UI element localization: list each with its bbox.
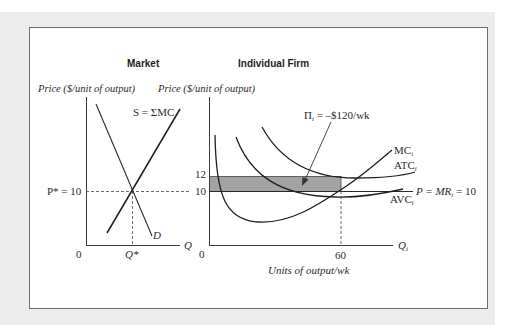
tick-10-label: 10	[195, 185, 206, 197]
firm-origin-label: 0	[199, 248, 205, 260]
market-y-axis-label: Price ($/unit of output)	[38, 83, 135, 95]
supply-label: S = ΣMC	[133, 106, 174, 118]
supply-curve	[107, 109, 180, 233]
market-x-axis-label: Q	[184, 239, 192, 251]
firm-x-axis-title: Units of output/wk	[268, 264, 349, 276]
tick-12-label: 12	[195, 168, 206, 180]
atc-label: ATCi	[394, 159, 417, 175]
firm-y-axis-label: Price ($/unit of output)	[158, 83, 255, 95]
firm-x-axis-symbol: Q	[398, 239, 406, 251]
demand-label: D	[153, 229, 161, 241]
firm-title: Individual Firm	[238, 58, 309, 70]
subscript: i	[406, 245, 408, 253]
profit-label: Πi = –$120/wk	[304, 109, 370, 125]
equilibrium-quantity-label: Q*	[125, 248, 138, 260]
market-origin-label: 0	[76, 248, 82, 260]
firm-x-axis-label: Qi	[398, 239, 408, 255]
equilibrium-price-label: P* = 10	[47, 185, 81, 197]
tick-60-label: 60	[335, 249, 346, 261]
price-line-label: P = MRi = 10	[416, 185, 476, 201]
market-guides	[86, 191, 189, 245]
mc-label: MCi	[394, 144, 413, 160]
market-title: Market	[127, 58, 159, 70]
avc-label: AVCi	[390, 193, 414, 209]
market-axes	[86, 97, 180, 246]
diagram-canvas	[0, 0, 515, 333]
atc-curve	[262, 127, 415, 178]
